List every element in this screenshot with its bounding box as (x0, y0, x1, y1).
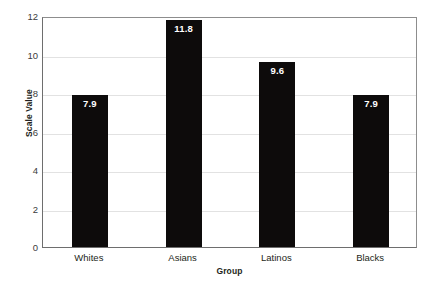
y-axis-tick-labels: 024681012 (18, 0, 38, 286)
y-tick-label: 10 (20, 51, 38, 61)
bar[interactable]: 7.9 (353, 95, 389, 247)
x-tick-label: Asians (136, 252, 230, 263)
y-tick-label: 6 (20, 128, 38, 138)
y-tick-label: 2 (20, 205, 38, 215)
bar-value-label: 9.6 (259, 65, 295, 76)
x-tick-label: Whites (42, 252, 136, 263)
bar-chart-figure: Scale Value 024681012 7.911.89.67.9 Whit… (0, 0, 428, 286)
bar-value-label: 7.9 (353, 98, 389, 109)
y-tick-label: 0 (20, 243, 38, 253)
plot-area: 7.911.89.67.9 (42, 17, 417, 248)
bar[interactable]: 9.6 (259, 62, 295, 247)
y-tick-label: 12 (20, 12, 38, 22)
y-tick-label: 8 (20, 89, 38, 99)
bars-layer: 7.911.89.67.9 (43, 18, 416, 247)
bar[interactable]: 11.8 (166, 20, 202, 247)
x-axis-title: Group (42, 266, 417, 276)
x-tick-label: Blacks (323, 252, 417, 263)
bar-value-label: 7.9 (72, 98, 108, 109)
y-tick-label: 4 (20, 166, 38, 176)
x-tick-label: Latinos (230, 252, 324, 263)
bar-value-label: 11.8 (166, 23, 202, 34)
bar[interactable]: 7.9 (72, 95, 108, 247)
x-axis-tick-labels: WhitesAsiansLatinosBlacks (42, 252, 417, 266)
